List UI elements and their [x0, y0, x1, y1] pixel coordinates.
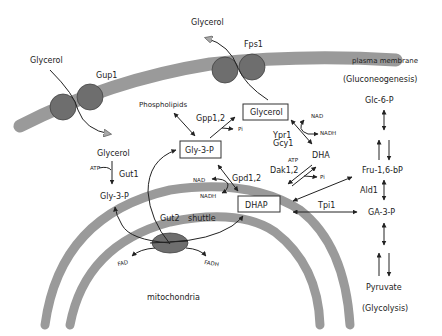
- glycerol-metabolism-diagram: plasma membrane (Gluconeogenesis) mitoch…: [0, 0, 442, 336]
- dak-pi-label: Pi: [320, 174, 325, 180]
- gpp-label: Gpp1,2: [196, 114, 225, 123]
- shuttle-label: shuttle: [188, 214, 216, 223]
- glc6p-label: Glc-6-P: [365, 96, 394, 105]
- glycerol-outside-left: Glycerol: [30, 56, 63, 65]
- gcy1-label: Gcy1: [273, 139, 293, 148]
- mitochondria-label: mitochondria: [147, 293, 200, 302]
- gluconeogenesis-label: (Gluconeogenesis): [343, 75, 417, 84]
- glycerol-box-label: Glycerol: [250, 108, 283, 117]
- gup1-protein: [50, 94, 76, 120]
- gut1-label: Gut1: [119, 170, 139, 179]
- gpd-nadh-label: NADH: [200, 193, 216, 199]
- gpp-pi-arrow: [222, 128, 233, 129]
- pyruvate-label: Pyruvate: [366, 283, 402, 292]
- gut2-label: Gut2: [160, 214, 180, 223]
- fps1-protein: [212, 57, 238, 83]
- fps1-label: Fps1: [244, 40, 263, 49]
- tpi1-label: Tpi1: [317, 201, 335, 210]
- mitochondria-inner-membrane: [70, 217, 320, 325]
- dha-label: DHA: [312, 151, 330, 160]
- gpd-label: Gpd1,2: [232, 174, 261, 183]
- gpd-nad-label: NAD: [193, 177, 205, 183]
- phospholipids-arrow: [174, 113, 195, 136]
- gly3p-box-label: Gly-3-P: [185, 146, 214, 155]
- dhap-box-label: DHAP: [245, 201, 268, 210]
- gpp-pi-label: Pi: [238, 126, 243, 132]
- ypr-cofactor-arrow: [301, 120, 318, 134]
- gut1-atp-arrow: [99, 167, 111, 170]
- plasma-membrane-label: plasma membrane: [352, 57, 418, 65]
- mitochondria-outer-membrane: [45, 187, 350, 325]
- fadh-label: FADH: [204, 259, 220, 267]
- gut2-fad-arrow: [132, 248, 155, 256]
- glycolysis-label: (Glycolysis): [362, 304, 408, 313]
- phospholipids-label: Phospholipids: [139, 101, 187, 109]
- ald1-label: Ald1: [360, 186, 378, 195]
- ga3p-label: GA-3-P: [368, 208, 395, 217]
- gup1-label: Gup1: [96, 71, 117, 80]
- glycerol-inside-left: Glycerol: [97, 149, 130, 158]
- dak-atp-label: ATP: [288, 157, 299, 163]
- gup1-protein: [77, 84, 103, 110]
- ypr-nad-label: NAD: [311, 113, 323, 119]
- dak-label: Dak1,2: [270, 166, 298, 175]
- fru16bp-label: Fru-1,6-bP: [362, 166, 403, 175]
- fad-label: FAD: [117, 259, 129, 267]
- gut2-fadh-arrow: [186, 248, 206, 256]
- fru-to-dhap-arrow: [293, 177, 352, 201]
- gly3p-left-label: Gly-3-P: [100, 192, 129, 201]
- ypr-nadh-label: NADH: [320, 130, 336, 136]
- dak-pi-arrow: [304, 176, 317, 177]
- glycerol-outside-top: Glycerol: [191, 18, 224, 27]
